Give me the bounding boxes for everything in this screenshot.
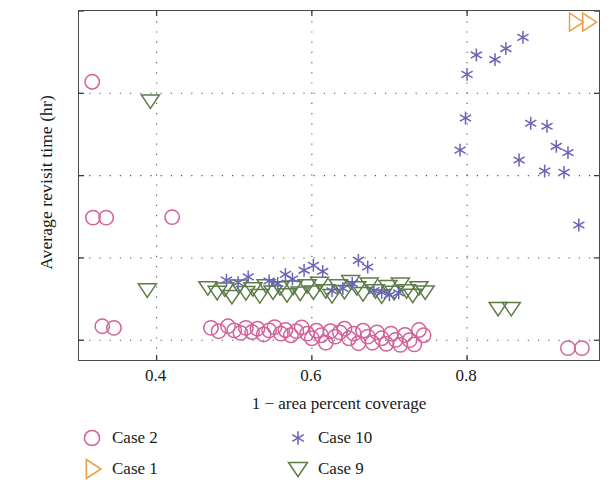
series-case-10: [221, 31, 584, 301]
x-tick-label: 0.6: [300, 366, 321, 386]
x-tick-label: 0.8: [455, 366, 476, 386]
series-case-9: [138, 95, 520, 316]
grid-lines: [79, 11, 599, 360]
legend-entry-case-9[interactable]: Case 9: [284, 455, 364, 482]
legend-label: Case 1: [112, 459, 158, 479]
legend-marker-triangle-down-icon: [284, 457, 312, 481]
legend-marker-triangle-right-icon: [78, 457, 106, 481]
x-tick-label: 0.4: [145, 366, 166, 386]
legend-label: Case 2: [112, 428, 158, 448]
legend-label: Case 9: [318, 459, 364, 479]
x-axis-title: 1 − area percent coverage: [78, 394, 600, 414]
legend-label: Case 10: [318, 428, 372, 448]
legend-entry-case-2[interactable]: Case 2: [78, 424, 158, 451]
legend-marker-asterisk-icon: [284, 426, 312, 450]
legend-marker-circle-icon: [78, 426, 106, 450]
series-case-1: [570, 13, 597, 31]
plot-canvas: [79, 11, 599, 360]
scatter-plot-figure: Average revisit time (hr) 11.522.53 0.40…: [0, 0, 610, 493]
chart-legend: Case 2Case 1Case 10Case 9: [78, 424, 498, 486]
legend-entry-case-1[interactable]: Case 1: [78, 455, 158, 482]
plot-area: [78, 10, 600, 361]
legend-entry-case-10[interactable]: Case 10: [284, 424, 372, 451]
